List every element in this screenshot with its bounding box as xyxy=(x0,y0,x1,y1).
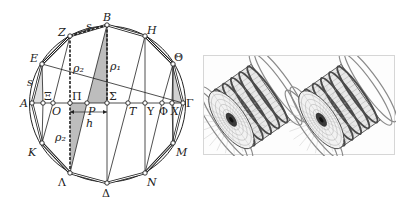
point-Gamma xyxy=(181,101,185,105)
annotation-rho2_bottom: ρ₂ xyxy=(54,131,66,144)
point-Lambda xyxy=(68,171,72,175)
annotation-s_top: s xyxy=(86,20,92,33)
geometry-diagram: AEZBHΘΓMNΔΛKΞOΠPΣTΥΦXssρ₁ρ₂ρ₂h xyxy=(0,0,205,211)
label-T: T xyxy=(129,105,138,118)
annotation-rho1: ρ₁ xyxy=(109,60,121,73)
slant-T-Delta xyxy=(107,103,128,183)
label-M: M xyxy=(175,146,188,159)
annotation-s_left: s xyxy=(27,76,33,89)
coil-right xyxy=(268,56,396,156)
label-Gamma: Γ xyxy=(186,97,194,110)
point-N xyxy=(143,171,147,175)
label-Sigma: Σ xyxy=(109,90,117,103)
annotation-h: h xyxy=(86,117,93,130)
annotation-rho2_top: ρ₂ xyxy=(72,62,84,75)
h-arrow-right xyxy=(103,110,107,114)
coil-renderings xyxy=(204,56,396,156)
label-Z: Z xyxy=(57,26,66,39)
label-Upsilon: Υ xyxy=(146,105,155,118)
point-K xyxy=(40,141,44,145)
label-O: O xyxy=(52,105,61,118)
polygon-edge-inner xyxy=(42,143,70,173)
coil-render-frame xyxy=(203,55,395,155)
polygon-edge-inner xyxy=(107,173,145,183)
label-Delta: Δ xyxy=(102,187,110,200)
polygon-edge-inner xyxy=(42,36,70,64)
point-E xyxy=(40,62,44,66)
label-E: E xyxy=(29,52,38,65)
point-Delta xyxy=(105,181,109,185)
label-Theta: Θ xyxy=(174,51,183,64)
point-M xyxy=(171,141,175,145)
polygon-edge-inner xyxy=(145,143,173,173)
label-Xi: Ξ xyxy=(44,90,52,103)
slant-Theta-Phi xyxy=(162,64,173,103)
label-H: H xyxy=(146,24,157,37)
slant-H-T xyxy=(128,36,145,103)
label-K: K xyxy=(27,146,37,159)
polygon-edge-inner xyxy=(145,36,173,64)
point-A xyxy=(30,101,34,105)
label-Phi: Φ xyxy=(159,105,168,118)
label-B: B xyxy=(102,11,111,24)
label-Lambda: Λ xyxy=(57,176,67,189)
label-A: A xyxy=(19,97,28,110)
coil-left xyxy=(204,56,313,156)
label-N: N xyxy=(146,176,157,189)
vertical-K-Xi xyxy=(42,103,43,143)
point-Z xyxy=(68,34,72,38)
polygon-edge-inner xyxy=(70,173,107,183)
polygon-edge-inner xyxy=(107,25,145,36)
label-Pi: Π xyxy=(72,90,82,103)
figure: AEZBHΘΓMNΔΛKΞOΠPΣTΥΦXssρ₁ρ₂ρ₂h xyxy=(0,0,415,211)
label-Chi: X xyxy=(170,105,180,118)
